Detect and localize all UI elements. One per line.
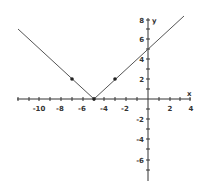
x-tick-label: -8: [56, 105, 64, 113]
y-tick-label: -4: [136, 136, 144, 144]
x-tick-label: -4: [100, 105, 108, 113]
x-tick-label: 4: [189, 105, 194, 113]
data-point: [70, 77, 74, 81]
y-tick-label: 6: [139, 36, 144, 44]
y-tick-labels: 8 6 4 2 -2 -4 -6: [136, 17, 144, 165]
x-tick-labels: -10 -8 -6 -4 -2 2 4: [33, 105, 194, 113]
x-tick-label: -10: [33, 105, 46, 113]
x-axis-label: x: [187, 90, 192, 98]
x-tick-label: 2: [168, 105, 173, 113]
y-tick-label: -6: [136, 157, 144, 165]
x-tick-label: -2: [121, 105, 129, 113]
y-tick-label: 2: [139, 76, 144, 84]
vertex-point: [92, 97, 96, 101]
y-tick-label: 8: [139, 17, 144, 25]
x-tick-label: -6: [78, 105, 86, 113]
function-curve: [18, 16, 184, 99]
graph-canvas: -10 -8 -6 -4 -2 2 4 8 6 4 2 -2 -4 -6 y x: [0, 0, 202, 187]
y-axis-label: y: [152, 17, 157, 25]
y-tick-label: -2: [136, 116, 144, 124]
data-point: [113, 77, 117, 81]
